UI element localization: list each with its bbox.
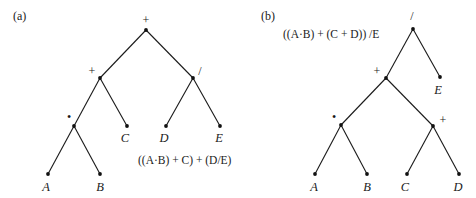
edge-plus2-d — [433, 126, 459, 174]
node-leaf-c — [125, 124, 129, 128]
leaf-label-c: C — [121, 131, 130, 145]
edge-mul-a — [315, 125, 341, 174]
leaf-label-c: C — [401, 180, 410, 194]
panel-a-label: (a) — [13, 9, 26, 23]
operator-plus-right: + — [440, 113, 447, 127]
node-divide — [191, 76, 195, 80]
edge-right-d — [166, 78, 193, 126]
panel-b: (b) / + • + E A B C D — [261, 9, 463, 194]
node-plus — [98, 76, 102, 80]
node-leaf-b — [365, 172, 369, 176]
operator-plus-left: + — [89, 64, 96, 78]
panel-a: (a) + + / • A — [13, 9, 232, 194]
expression-trees-figure: (a) + + / • A — [0, 0, 476, 198]
leaf-label-a: A — [309, 180, 318, 194]
edge-plus2-c — [407, 126, 433, 174]
operator-multiply: • — [332, 110, 336, 124]
leaf-label-b: B — [96, 180, 104, 194]
node-leaf-e — [218, 124, 222, 128]
edge-plus-mul — [341, 78, 386, 125]
node-leaf-c — [405, 172, 409, 176]
operator-plus-root: + — [143, 13, 150, 27]
leaf-label-e: E — [433, 83, 442, 97]
node-multiply — [72, 124, 76, 128]
edge-plus-plus2 — [386, 78, 433, 126]
edge-root-left — [100, 30, 146, 78]
leaf-label-d: D — [452, 180, 462, 194]
node-multiply — [339, 123, 343, 127]
leaf-label-b: B — [363, 180, 371, 194]
edge-root-e — [413, 29, 440, 77]
node-root — [411, 27, 415, 31]
edge-left-mul — [74, 78, 100, 126]
operator-divide-root: / — [410, 9, 414, 23]
node-plus-right — [431, 124, 435, 128]
panel-b-label: (b) — [261, 9, 275, 23]
node-leaf-d — [164, 124, 168, 128]
panel-b-nodes — [313, 27, 461, 176]
leaf-label-d: D — [158, 131, 168, 145]
node-leaf-e — [438, 75, 442, 79]
panel-a-edges — [48, 30, 220, 174]
edge-right-e — [193, 78, 220, 126]
edge-root-plus — [386, 29, 413, 78]
panel-b-edges — [315, 29, 459, 174]
operator-multiply: • — [67, 110, 71, 124]
edge-mul-b — [74, 126, 100, 174]
operator-plus-left: + — [374, 64, 381, 78]
expression-a: ((A·B) + C) + (D/E) — [138, 154, 232, 167]
node-root — [144, 28, 148, 32]
edge-left-c — [100, 78, 127, 126]
node-leaf-d — [457, 172, 461, 176]
edge-root-right — [146, 30, 193, 78]
edge-mul-b — [341, 125, 367, 174]
node-leaf-a — [313, 172, 317, 176]
node-leaf-b — [98, 172, 102, 176]
node-plus — [384, 76, 388, 80]
leaf-label-e: E — [214, 131, 223, 145]
expression-b: ((A·B) + (C + D)) /E — [283, 28, 379, 41]
leaf-label-a: A — [41, 180, 50, 194]
operator-divide: / — [198, 64, 202, 78]
node-leaf-a — [46, 172, 50, 176]
edge-mul-a — [48, 126, 74, 174]
